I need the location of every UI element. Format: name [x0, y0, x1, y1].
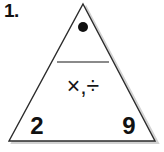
horizontal-rule-divider	[57, 61, 109, 63]
apex-dot-icon	[78, 22, 88, 32]
bottom-right-number: 9	[116, 113, 142, 139]
worksheet-problem-item: 1. ×,÷ 2 9	[0, 0, 164, 152]
operators-label: ×,÷	[43, 74, 123, 99]
bottom-left-number: 2	[24, 113, 50, 139]
